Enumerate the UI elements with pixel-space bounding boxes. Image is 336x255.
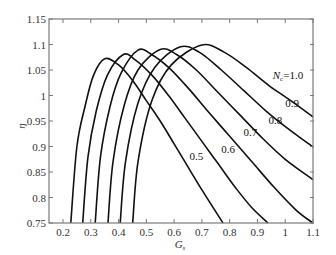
y-tick-label: 0.75 — [27, 217, 47, 229]
x-tick-label: 1.1 — [306, 226, 320, 238]
y-axis-label: η — [15, 123, 27, 128]
curve-nc-0.5 — [71, 58, 223, 223]
y-tick-label: 0.9 — [32, 141, 46, 153]
y-tick-label: 0.8 — [32, 192, 46, 204]
curve-label: 0.6 — [221, 143, 235, 155]
curve-label: 0.9 — [285, 97, 299, 109]
efficiency-chart: 0.20.30.40.50.60.70.80.911.1 0.750.80.85… — [0, 0, 336, 255]
y-tick-label: 1.15 — [27, 13, 47, 25]
x-tick-label: 0.9 — [251, 226, 265, 238]
x-tick-label: 1 — [282, 226, 288, 238]
curve-label: 0.7 — [244, 126, 258, 138]
curve-label: 0.5 — [189, 150, 203, 162]
x-tick-label: 0.6 — [167, 226, 181, 238]
y-tick-label: 1 — [41, 90, 47, 102]
y-tick-label: 1.05 — [27, 64, 47, 76]
x-axis-label: Gs — [175, 238, 186, 252]
x-tick-label: 0.3 — [84, 226, 98, 238]
x-tick-label: 0.4 — [112, 226, 126, 238]
x-tick-label: 0.7 — [195, 226, 209, 238]
x-tick-label: 0.5 — [139, 226, 153, 238]
curve-label: Nc=1.0 — [272, 69, 304, 83]
x-tick-label: 0.2 — [56, 226, 70, 238]
curve-label: 0.8 — [269, 114, 283, 126]
y-tick-label: 0.85 — [27, 166, 47, 178]
y-tick-label: 1.1 — [32, 39, 46, 51]
y-tick-label: 0.95 — [27, 115, 47, 127]
curve-nc-0.6 — [83, 54, 268, 223]
x-tick-label: 0.8 — [223, 226, 237, 238]
